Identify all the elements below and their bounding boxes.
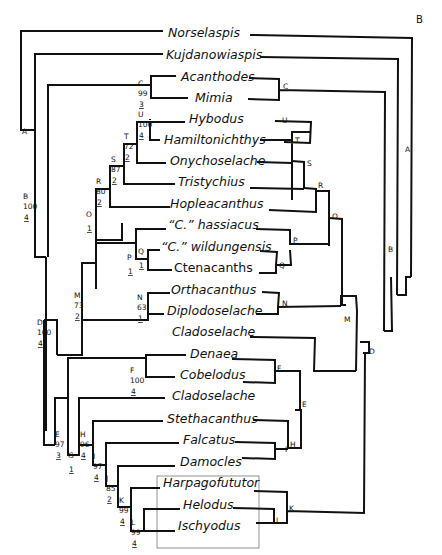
node-decay-l: 4 <box>132 539 137 548</box>
taxon-label-c-wildungensis: “C.” wildungensis <box>161 239 272 254</box>
node-decay-f: 4 <box>131 387 136 396</box>
node-letter-o: O <box>86 210 92 219</box>
node-decay-i: 4 <box>94 473 99 482</box>
node-letter-right-t: T <box>294 136 300 145</box>
taxon-label-diplodoselache: Diplodoselache <box>167 303 263 318</box>
node-letter-b: B <box>23 192 28 201</box>
node-letter-right-a: A <box>405 145 411 154</box>
node-letter-right-i: I <box>285 445 287 454</box>
branch-right-node-o-m <box>329 218 346 305</box>
node-letter-right-b: B <box>388 245 393 254</box>
branch-node-h <box>79 421 163 445</box>
taxon-label-acanthodes: Acanthodes <box>180 69 255 84</box>
node-decay-g: 1 <box>69 465 74 474</box>
node-letter-i: I <box>93 452 95 461</box>
node-support-n: 63 <box>137 303 147 312</box>
taxon-label-damocles: Damocles <box>180 454 242 469</box>
taxon-label-cladoselache-2: Cladoselache <box>172 388 256 403</box>
taxon-label-orthacanthus: Orthacanthus <box>171 282 257 297</box>
taxon-label-stethacanthus: Stethacanthus <box>167 411 258 426</box>
node-support-l: 99 <box>131 528 141 537</box>
node-letter-right-r: R <box>318 181 323 190</box>
node-letter-e: E <box>55 430 60 439</box>
branch-right-node-r-o <box>316 191 329 246</box>
node-decay-c: 3 <box>139 100 144 109</box>
branch-node-m <box>57 289 148 355</box>
node-letter-s: S <box>111 155 116 164</box>
node-support-h: 96 <box>80 440 90 449</box>
taxon-label-ischyodus: Ischyodus <box>178 518 241 533</box>
node-letter-f: F <box>130 366 134 375</box>
node-letter-n: N <box>137 293 143 302</box>
node-decay-p: 1 <box>128 267 133 276</box>
node-support-c: 99 <box>138 89 148 98</box>
node-letter-u: U <box>138 110 144 119</box>
node-support-s: 87 <box>111 165 121 174</box>
node-letter-right-u: U <box>282 116 288 125</box>
node-decay-j: 2 <box>107 495 112 504</box>
taxon-label-hopleacanthus: Hopleacanthus <box>170 196 264 211</box>
branch-right-node-i <box>235 442 288 459</box>
node-decay-d: 4 <box>38 339 43 348</box>
branch-right-node-a <box>397 277 411 295</box>
node-support-i: 97 <box>93 462 103 471</box>
taxon-label-hamiltonichthys: Hamiltonichthys <box>164 132 266 147</box>
node-letter-right-m: M <box>344 315 350 324</box>
node-letter-h: H <box>80 430 86 439</box>
node-letter-right-e: E <box>302 400 307 409</box>
branch-node-k <box>118 486 160 507</box>
node-letter-right-p: P <box>293 236 298 245</box>
taxon-label-mimia: Mimia <box>195 90 233 105</box>
branch-node-r <box>96 189 170 240</box>
node-decay-n: 1 <box>138 314 143 323</box>
node-letter-d: D <box>37 318 43 327</box>
node-letter-j: J <box>105 474 108 483</box>
taxon-label-cladoselache-1: Cladoselache <box>172 324 256 339</box>
taxon-label-helodus: Helodus <box>183 497 234 512</box>
node-support-d: 100 <box>37 328 52 337</box>
taxa-labels: NorselaspisKujdanowiaspisAcanthodesMimia… <box>161 25 272 533</box>
node-letter-right-s: S <box>307 159 312 168</box>
node-decay-e: 3 <box>56 451 61 460</box>
branch-right-trist <box>250 183 304 189</box>
node-support-t: 72 <box>124 142 134 151</box>
node-letter-p: P <box>127 253 132 262</box>
branch-node-i <box>93 443 179 465</box>
taxon-label-onychoselache: Onychoselache <box>170 153 266 168</box>
node-decay-o: 1 <box>87 224 92 233</box>
node-letter-right-h: H <box>290 440 296 449</box>
right-tree-branches <box>232 35 412 523</box>
taxon-label-falcatus: Falcatus <box>183 432 236 447</box>
taxon-label-denaea: Denaea <box>190 346 238 361</box>
node-decay-h: 4 <box>81 451 86 460</box>
branch-right-norselaspis <box>250 35 412 277</box>
node-letter-c: C <box>138 79 143 88</box>
node-decay-s: 2 <box>112 176 117 185</box>
branch-right-node-m-e <box>341 296 357 371</box>
phylogenetic-tree: B NorselaspisKujdanowiaspisAcanthodesMim… <box>0 0 442 555</box>
node-decay-b: 4 <box>24 213 29 222</box>
node-letter-m: M <box>74 291 80 300</box>
node-support-e: 97 <box>55 440 65 449</box>
node-letter-a: A <box>22 127 28 136</box>
node-letter-right-n: N <box>282 299 288 308</box>
node-decay-k: 4 <box>120 517 125 526</box>
taxon-label-kujdanowiaspis: Kujdanowiaspis <box>166 47 263 62</box>
node-letter-t: T <box>123 132 129 141</box>
node-letter-r: R <box>96 177 101 186</box>
panel-label: B <box>416 14 423 25</box>
taxon-label-cobelodus: Cobelodus <box>180 367 246 382</box>
node-decay-m: 2 <box>75 312 80 321</box>
node-letter-q: Q <box>138 247 144 256</box>
taxon-label-norselaspis: Norselaspis <box>168 25 240 40</box>
branch-node-n <box>82 293 170 320</box>
branch-right-node-e-clado <box>250 337 356 371</box>
branch-right-node-b <box>384 277 392 331</box>
node-letter-l: L <box>131 518 136 527</box>
taxon-label-tristychius: Tristychius <box>178 174 245 189</box>
node-decay-r: 2 <box>97 198 102 207</box>
node-support-u: 100 <box>138 120 153 129</box>
branch-right-stub <box>295 409 300 410</box>
taxon-label-ctenacanths: Ctenacanths <box>174 260 253 275</box>
taxon-label-harpagofututor: Harpagofututor <box>163 475 260 490</box>
